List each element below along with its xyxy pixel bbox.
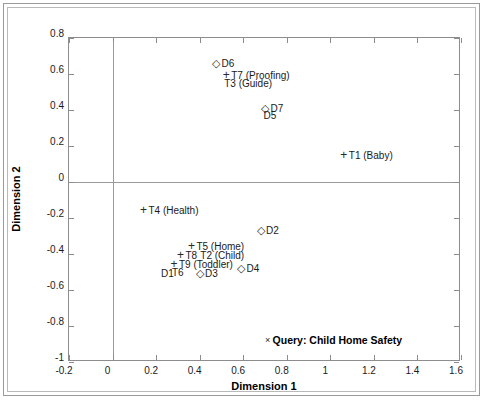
y-axis-tick-right bbox=[454, 38, 459, 39]
y-axis-tick-label: -0.4 bbox=[47, 244, 64, 255]
y-axis-tick-right bbox=[454, 182, 459, 183]
y-axis-tick-right bbox=[454, 110, 459, 111]
y-axis-tick bbox=[69, 110, 74, 111]
x-axis-tick bbox=[374, 355, 375, 360]
y-axis-tick-right bbox=[454, 362, 459, 363]
point-label-t4: T4 (Health) bbox=[148, 205, 198, 216]
point-label-d6: D6 bbox=[221, 57, 234, 68]
y-axis-tick-label: 0.2 bbox=[50, 136, 64, 147]
x-axis-tick bbox=[69, 355, 70, 360]
x-axis-tick bbox=[417, 355, 418, 360]
x-axis-tick-top bbox=[156, 38, 157, 43]
x-axis-tick bbox=[461, 355, 462, 360]
y-axis-tick bbox=[69, 182, 74, 183]
y-axis-tick bbox=[69, 254, 74, 255]
point-label-t1: T1 (Baby) bbox=[349, 149, 393, 160]
x-axis-tick bbox=[243, 355, 244, 360]
x-axis-tick-label: 1 bbox=[323, 365, 329, 376]
x-axis-tick-top bbox=[200, 38, 201, 43]
y-axis-tick-right bbox=[454, 146, 459, 147]
plus-marker-icon: + bbox=[140, 205, 147, 215]
plus-marker-icon: + bbox=[340, 150, 347, 160]
x-axis-tick-label: 0.2 bbox=[144, 365, 158, 376]
y-axis-tick-label: 0.4 bbox=[50, 100, 64, 111]
y-axis-tick-right bbox=[454, 326, 459, 327]
figure-outer-frame: -0.200.20.40.60.811.21.41.60.80.60.40.20… bbox=[3, 3, 480, 396]
x-axis-tick-label: 0.8 bbox=[275, 365, 289, 376]
y-axis-tick-right bbox=[454, 290, 459, 291]
y-axis-tick-right bbox=[454, 254, 459, 255]
y-axis-tick-label: -0.8 bbox=[47, 316, 64, 327]
point-label-t3: T3 (Guide) bbox=[224, 78, 272, 89]
diamond-marker-icon: ◇ bbox=[237, 263, 245, 273]
y-axis-tick bbox=[69, 146, 74, 147]
y-axis-tick bbox=[69, 38, 74, 39]
y-axis-tick bbox=[69, 218, 74, 219]
x-axis-tick-top bbox=[374, 38, 375, 43]
y-axis-tick bbox=[69, 74, 74, 75]
x-axis-tick-label: -0.2 bbox=[55, 365, 72, 376]
zero-line-horizontal bbox=[69, 182, 459, 183]
x-axis-tick-top bbox=[330, 38, 331, 43]
figure-inner-frame: -0.200.20.40.60.811.21.41.60.80.60.40.20… bbox=[7, 7, 476, 392]
x-axis-tick-label: 0 bbox=[105, 365, 111, 376]
x-axis-tick bbox=[200, 355, 201, 360]
zero-line-vertical bbox=[113, 38, 114, 360]
point-label-d4: D4 bbox=[246, 262, 259, 273]
diamond-marker-icon: ◇ bbox=[212, 58, 220, 68]
y-axis-tick-label: -1 bbox=[55, 352, 64, 363]
x-axis-tick-top bbox=[243, 38, 244, 43]
x-axis-tick-label: 0.6 bbox=[231, 365, 245, 376]
y-axis-tick-right bbox=[454, 218, 459, 219]
x-axis-tick bbox=[113, 355, 114, 360]
x-axis-tick-top bbox=[461, 38, 462, 43]
x-axis-tick bbox=[330, 355, 331, 360]
y-axis-tick-right bbox=[454, 74, 459, 75]
x-marker-icon: × bbox=[265, 335, 270, 345]
x-axis-tick-top bbox=[417, 38, 418, 43]
point-label-t6: T6 bbox=[172, 266, 184, 277]
x-axis-tick-top bbox=[287, 38, 288, 43]
x-axis-tick bbox=[156, 355, 157, 360]
x-axis-tick-label: 1.6 bbox=[449, 365, 463, 376]
x-axis-tick-label: 1.4 bbox=[405, 365, 419, 376]
x-axis-tick-top bbox=[113, 38, 114, 43]
x-axis-tick-label: 1.2 bbox=[362, 365, 376, 376]
y-axis-title: Dimension 2 bbox=[10, 166, 22, 231]
diamond-marker-icon: ◇ bbox=[257, 225, 265, 235]
y-axis-tick bbox=[69, 362, 74, 363]
x-axis-title: Dimension 1 bbox=[68, 380, 460, 392]
y-axis-tick bbox=[69, 290, 74, 291]
y-axis-tick-label: 0.8 bbox=[50, 28, 64, 39]
x-axis-tick-label: 0.4 bbox=[188, 365, 202, 376]
y-axis-tick-label: 0.6 bbox=[50, 64, 64, 75]
point-label-d5: D5 bbox=[263, 109, 276, 120]
point-label-query: Query: Child Home Safety bbox=[273, 334, 403, 345]
point-label-d2: D2 bbox=[266, 225, 279, 236]
y-axis-tick-label: -0.2 bbox=[47, 208, 64, 219]
y-axis-tick-label: -0.6 bbox=[47, 280, 64, 291]
x-axis-tick bbox=[287, 355, 288, 360]
y-axis-tick-label: 0 bbox=[58, 172, 64, 183]
y-axis-tick bbox=[69, 326, 74, 327]
point-label-t9: T9 (Toddler) bbox=[179, 259, 233, 270]
diamond-marker-icon: ◇ bbox=[196, 268, 204, 278]
